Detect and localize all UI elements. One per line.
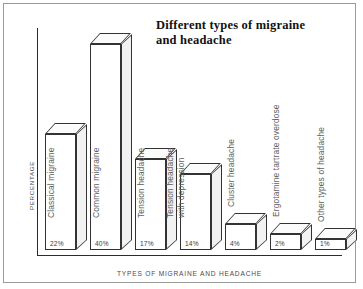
bar-category-label-line-1: Cluster headache: [226, 139, 236, 207]
bar-value-label: 14%: [185, 240, 199, 247]
bar-value-label: 22%: [50, 240, 64, 247]
bar-category-label: Classical migraine: [46, 147, 56, 218]
plot-area: Classical migraine22%Common migraine40%T…: [37, 28, 341, 250]
bar-side-face: [211, 164, 222, 250]
bar-value-label: 2%: [275, 240, 285, 247]
bar-category-label-line-1: Classical migraine: [46, 147, 56, 218]
bar-category-label-line-1: Ergotamine tartrate overdose: [271, 104, 281, 217]
bar-value-label: 1%: [320, 240, 330, 247]
bar-category-label: Tension headachewith depression: [165, 148, 186, 218]
bar-category-label-line-1: Tension headache: [165, 148, 176, 218]
x-axis-label: TYPES OF MIGRAINE AND HEADACHE: [37, 270, 342, 277]
chart-frame: Different types of migraine and headache…: [3, 3, 356, 283]
bar-value-label: 40%: [95, 240, 109, 247]
bar-category-label: Tension headache: [136, 148, 146, 218]
bar-category-label-line-1: Common migraine: [91, 147, 101, 218]
bar-value-label: 4%: [230, 240, 240, 247]
x-axis-line: [37, 255, 342, 256]
bar-category-label-line-1: Other types of headache: [316, 127, 326, 222]
bar-side-face: [76, 124, 87, 250]
bar-category-label: Other types of headache: [316, 127, 326, 222]
bar-category-label: Cluster headache: [226, 139, 236, 207]
bar-category-label-line-1: Tension headache: [136, 148, 146, 218]
bar-category-label-line-2: with depression: [176, 148, 187, 218]
bar-category-label: Ergotamine tartrate overdose: [271, 104, 281, 217]
y-axis-label: PERCENTAGE: [28, 149, 35, 223]
bar-category-label: Common migraine: [91, 147, 101, 218]
bar-value-label: 17%: [140, 240, 154, 247]
bar-side-face: [121, 34, 132, 250]
